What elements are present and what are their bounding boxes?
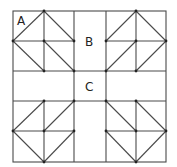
mask	[42, 72, 46, 100]
diagonal-line	[136, 11, 166, 41]
label-b: B	[85, 35, 93, 49]
diagonal-line	[44, 131, 74, 162]
vertex-dot	[43, 70, 46, 73]
quilt-diagram: A B C	[0, 0, 177, 167]
vertex-dot	[105, 70, 108, 73]
vertex-dot	[12, 40, 15, 43]
vertex-dot	[73, 40, 76, 43]
vertex-dot	[73, 70, 76, 73]
vertex-dot	[105, 40, 108, 43]
diagonal-line	[106, 41, 136, 71]
diagonal-line	[136, 101, 166, 131]
vertex-dot	[135, 130, 138, 133]
vertex-dot	[43, 161, 46, 164]
diagonal-line	[44, 101, 74, 131]
vertex-dot	[73, 100, 76, 103]
diagonal-line	[13, 131, 44, 162]
label-a: A	[17, 14, 26, 28]
diagonal-line	[106, 131, 136, 162]
vertex-dot	[135, 40, 138, 43]
vertex-dot	[105, 130, 108, 133]
mask	[134, 72, 138, 100]
mask	[75, 129, 105, 133]
vertex-dot	[43, 130, 46, 133]
vertex-dot	[135, 161, 138, 164]
vertex-dot	[12, 130, 15, 133]
vertex-dot	[165, 40, 168, 43]
diagonal-line	[106, 101, 136, 131]
vertex-dot	[43, 10, 46, 13]
vertex-dot	[165, 130, 168, 133]
vertex-dot	[105, 100, 108, 103]
diagonal-line	[136, 131, 166, 162]
vertex-dot	[135, 70, 138, 73]
label-c: C	[85, 80, 93, 94]
vertex-dot	[73, 130, 76, 133]
vertex-dot	[43, 100, 46, 103]
vertex-dot	[43, 40, 46, 43]
vertex-dot	[135, 10, 138, 13]
diagonal-line	[13, 101, 44, 131]
diagonal-line	[13, 41, 44, 71]
diagonal-line	[44, 11, 74, 41]
diagonal-line	[136, 41, 166, 71]
vertex-dot	[135, 100, 138, 103]
diagonal-line	[106, 11, 136, 41]
diagonal-line	[44, 41, 74, 71]
